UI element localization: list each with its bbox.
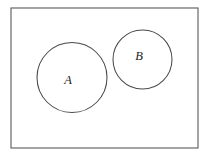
universe-set-rectangle [11,8,198,148]
set-label-b: B [135,49,143,63]
venn-diagram-canvas: A B [0,0,210,157]
set-label-a: A [63,73,72,87]
venn-diagram-figure: A B [0,0,210,157]
